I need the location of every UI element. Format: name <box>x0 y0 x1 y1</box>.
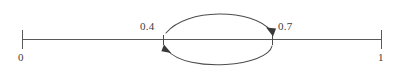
point-label-0-4: 0.4 <box>140 21 154 32</box>
arrow-lower-arc-head <box>161 45 171 53</box>
axis-label-one: 1 <box>378 52 384 63</box>
arrow-lower-arc-path <box>167 46 272 65</box>
arrow-upper-arc-head <box>266 28 276 37</box>
point-label-0-7: 0.7 <box>278 21 292 32</box>
axis-label-zero: 0 <box>18 52 24 63</box>
number-line-diagram: 0 1 0.4 0.7 <box>0 0 404 79</box>
arrow-upper-arc-path <box>166 14 271 33</box>
diagram-canvas <box>0 0 404 79</box>
